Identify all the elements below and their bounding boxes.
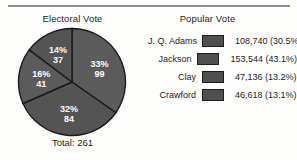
legend-vote-value: 108,740 (30.5%) bbox=[224, 36, 297, 46]
pie-slice-value-label: 84 bbox=[64, 114, 74, 124]
legend-row: J. Q. Adams108,740 (30.5%) bbox=[148, 32, 297, 50]
pie-slice-percent-label: 32% bbox=[60, 104, 78, 114]
legend-row: Clay47,136 (13.2%) bbox=[148, 68, 297, 86]
header-divider bbox=[8, 5, 290, 7]
pie-svg: 33%9932%8416%4114%37 bbox=[17, 27, 127, 137]
legend-candidate-name: J. Q. Adams bbox=[148, 36, 202, 46]
popular-vote-title: Popular Vote bbox=[150, 13, 265, 24]
legend-candidate-name: Clay bbox=[148, 72, 202, 82]
pie-slice-percent-label: 16% bbox=[32, 69, 50, 79]
legend-row: Crawford46,618 (13.1%) bbox=[148, 86, 297, 104]
electoral-vote-title: Electoral Vote bbox=[0, 13, 145, 24]
legend-swatch-clay bbox=[202, 71, 224, 83]
pie-slice-value-label: 37 bbox=[53, 55, 63, 65]
legend-row: Jackson153,544 (43.1%) bbox=[148, 50, 297, 68]
legend-vote-value: 153,544 (43.1%) bbox=[219, 54, 297, 64]
pie-slice-value-label: 99 bbox=[94, 69, 104, 79]
election-results-figure: Electoral Vote Popular Vote 33%9932%8416… bbox=[0, 0, 297, 160]
legend-candidate-name: Jackson bbox=[148, 54, 197, 64]
pie-slice-percent-label: 33% bbox=[90, 59, 108, 69]
legend-swatch-jackson bbox=[197, 53, 219, 65]
legend-vote-value: 47,136 (13.2%) bbox=[224, 72, 297, 82]
popular-vote-legend: J. Q. Adams108,740 (30.5%)Jackson153,544… bbox=[148, 32, 297, 104]
legend-candidate-name: Crawford bbox=[148, 90, 202, 100]
legend-swatch-adams bbox=[202, 35, 224, 47]
pie-slice-percent-label: 14% bbox=[49, 45, 67, 55]
legend-swatch-crawford bbox=[202, 89, 224, 101]
electoral-vote-pie-chart: 33%9932%8416%4114%37 bbox=[17, 27, 127, 137]
legend-vote-value: 46,618 (13.1%) bbox=[224, 90, 297, 100]
pie-slice-value-label: 41 bbox=[36, 79, 46, 89]
electoral-total-label: Total: 261 bbox=[0, 137, 145, 148]
